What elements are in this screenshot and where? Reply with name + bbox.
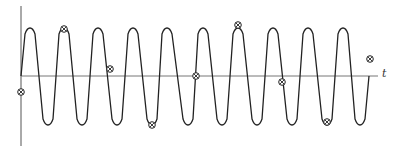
sample-points [18,22,374,129]
sample-point-icon [107,66,114,73]
sample-point-icon [149,122,156,129]
sample-point-icon [61,26,68,33]
sample-point-icon [324,119,331,126]
sample-point-icon [235,22,242,29]
sample-point-icon [279,79,286,86]
sample-point-icon [367,56,374,63]
t-axis-label: t [382,67,386,80]
sample-point-icon [18,89,25,96]
aliasing-diagram [0,0,399,150]
sample-point-icon [193,73,200,80]
